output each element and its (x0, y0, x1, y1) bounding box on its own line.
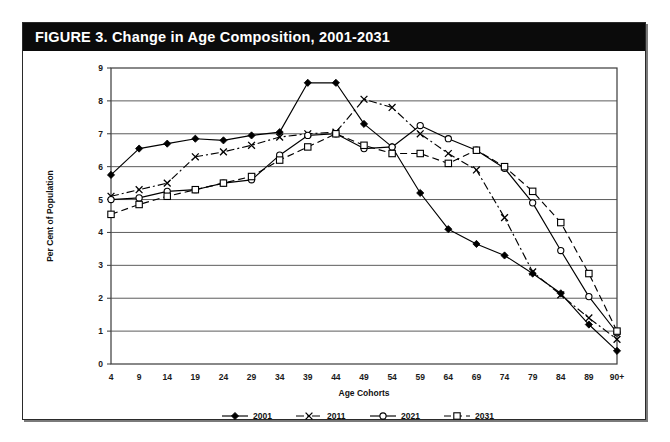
legend-label-2031: 2031 (475, 411, 494, 421)
data-point-2021 (417, 122, 423, 128)
y-axis-tick-label: 8 (98, 96, 103, 106)
x-axis-tick-label: 9 (137, 372, 142, 382)
data-point-2031 (501, 163, 507, 169)
y-axis-tick-label: 2 (98, 293, 103, 303)
x-axis-tick-label: 74 (500, 372, 510, 382)
data-point-2031 (220, 180, 226, 186)
chart-legend: 2001201120212031 (222, 411, 494, 421)
data-point-2031 (361, 142, 367, 148)
legend-marker-2011 (306, 413, 313, 420)
data-point-2021 (586, 293, 592, 299)
data-point-2031 (614, 328, 620, 334)
x-axis-tick-label: 64 (444, 372, 454, 382)
data-point-2021 (305, 132, 311, 138)
legend-marker-2031 (454, 413, 460, 419)
x-axis-tick-label: 39 (303, 372, 313, 382)
y-axis-tick-label: 0 (98, 359, 103, 369)
figure-card: FIGURE 3. Change in Age Composition, 200… (22, 22, 646, 420)
legend-marker-2001 (231, 412, 238, 419)
y-axis-tick-label: 3 (98, 260, 103, 270)
x-axis-tick-label: 19 (191, 372, 201, 382)
data-point-2031 (136, 201, 142, 207)
data-point-2031 (389, 150, 395, 156)
data-point-2031 (417, 150, 423, 156)
data-point-2021 (530, 200, 536, 206)
legend-label-2011: 2011 (327, 411, 346, 421)
y-axis-tick-label: 5 (98, 195, 103, 205)
data-point-2031 (248, 173, 254, 179)
x-axis-tick-label: 69 (472, 372, 482, 382)
data-point-2031 (529, 188, 535, 194)
legend-label-2021: 2021 (401, 411, 420, 421)
data-point-2031 (164, 193, 170, 199)
legend-label-2001: 2001 (253, 411, 272, 421)
x-axis-tick-label: 44 (331, 372, 341, 382)
data-point-2021 (445, 136, 451, 142)
chart-plot-area: 0123456789491419242934394449545964697479… (23, 51, 645, 421)
x-axis-tick-label: 90+ (610, 372, 624, 382)
data-point-2031 (276, 157, 282, 163)
x-axis-tick-label: 14 (162, 372, 172, 382)
age-composition-line-chart: 0123456789491419242934394449545964697479… (23, 51, 647, 421)
x-axis-tick-label: 89 (584, 372, 594, 382)
data-point-2031 (586, 270, 592, 276)
legend-marker-2021 (380, 413, 386, 419)
data-point-2021 (136, 195, 142, 201)
data-point-2031 (473, 147, 479, 153)
x-axis-tick-label: 34 (275, 372, 285, 382)
plot-frame (111, 68, 617, 364)
y-axis-tick-label: 4 (98, 227, 103, 237)
y-axis-tick-label: 9 (98, 63, 103, 73)
data-point-2031 (305, 144, 311, 150)
x-axis-tick-label: 4 (109, 372, 114, 382)
figure-title: FIGURE 3. Change in Age Composition, 200… (35, 29, 390, 45)
x-axis-tick-label: 24 (219, 372, 229, 382)
x-axis-tick-label: 84 (556, 372, 566, 382)
x-axis-tick-label: 54 (387, 372, 397, 382)
y-axis-tick-label: 7 (98, 129, 103, 139)
data-point-2031 (108, 211, 114, 217)
x-axis-title: Age Cohorts (339, 388, 390, 398)
data-point-2021 (108, 196, 114, 202)
x-axis-tick-label: 49 (359, 372, 369, 382)
data-point-2021 (389, 144, 395, 150)
x-axis-tick-label: 79 (528, 372, 538, 382)
figure-title-bar: FIGURE 3. Change in Age Composition, 200… (23, 23, 645, 51)
y-axis-title: Per Cent of Population (45, 170, 55, 262)
x-axis-tick-label: 59 (415, 372, 425, 382)
data-point-2031 (333, 131, 339, 137)
x-axis-tick-label: 29 (247, 372, 257, 382)
data-point-2031 (445, 160, 451, 166)
data-point-2031 (192, 186, 198, 192)
data-point-2031 (558, 219, 564, 225)
y-axis-tick-label: 1 (98, 326, 103, 336)
data-point-2021 (558, 247, 564, 253)
y-axis-tick-label: 6 (98, 162, 103, 172)
